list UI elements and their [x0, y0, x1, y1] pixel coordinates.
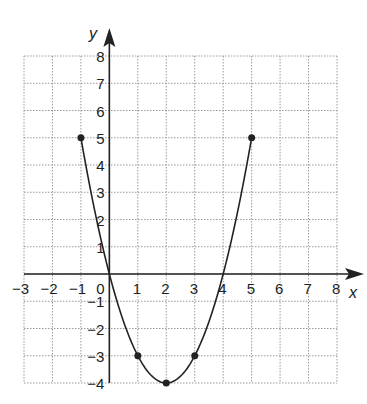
data-point — [77, 134, 84, 141]
x-tick-label: 2 — [161, 280, 169, 297]
parabola-graph: −3−2−1012345678−4−3−2−112345678 x y — [0, 0, 367, 404]
grid-lines — [24, 56, 337, 383]
x-tick-label: −1 — [69, 280, 86, 297]
x-tick-label: −2 — [40, 280, 57, 297]
x-tick-label: 3 — [190, 280, 198, 297]
data-point — [248, 134, 255, 141]
x-tick-label: 8 — [332, 280, 340, 297]
x-axis-label: x — [348, 284, 358, 301]
x-tick-label: 5 — [247, 280, 255, 297]
axes — [24, 28, 364, 383]
y-tick-label: −2 — [87, 321, 104, 338]
data-point — [191, 352, 198, 359]
data-point — [134, 352, 141, 359]
y-axis-label: y — [88, 25, 98, 42]
y-tick-label: 3 — [96, 184, 104, 201]
y-tick-label: 5 — [96, 130, 104, 147]
y-tick-label: 8 — [96, 48, 104, 65]
y-tick-label: 6 — [96, 103, 104, 120]
y-tick-label: 4 — [96, 157, 104, 174]
data-point — [163, 380, 170, 387]
x-tick-label: −3 — [12, 280, 29, 297]
y-tick-label: −3 — [87, 348, 104, 365]
y-tick-label: −4 — [87, 375, 104, 392]
x-tick-label: 1 — [133, 280, 141, 297]
y-tick-label: −1 — [87, 293, 104, 310]
x-tick-label: 6 — [275, 280, 283, 297]
y-tick-label: 7 — [96, 75, 104, 92]
x-tick-label: 7 — [304, 280, 312, 297]
